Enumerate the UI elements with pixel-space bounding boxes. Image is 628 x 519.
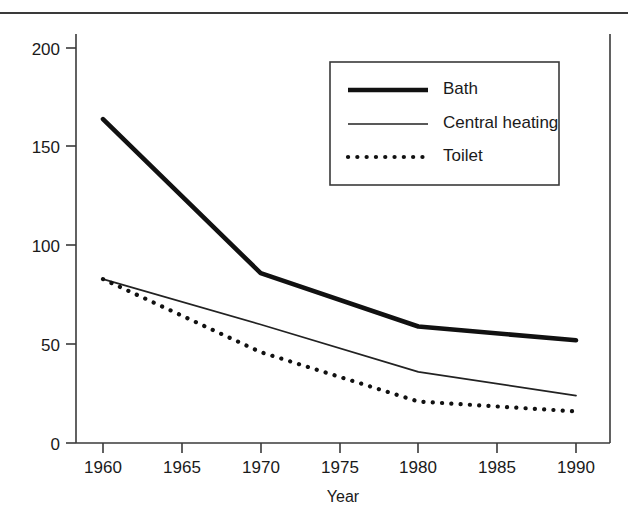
x-tick-label-1960: 1960 — [84, 458, 122, 477]
chart-legend[interactable]: Bath Central heating Toilet — [330, 62, 559, 185]
y-tick-label-150: 150 — [32, 138, 60, 157]
series-line-central-heating — [103, 279, 576, 396]
x-tick-label-1980: 1980 — [399, 458, 437, 477]
x-tick-label-1985: 1985 — [478, 458, 516, 477]
x-tick-label-1965: 1965 — [163, 458, 201, 477]
legend-label-central-heating: Central heating — [443, 113, 558, 132]
x-axis-title: Year — [327, 488, 360, 505]
legend-label-bath: Bath — [443, 79, 478, 98]
x-tick-label-1990: 1990 — [557, 458, 595, 477]
y-tick-label-50: 50 — [41, 336, 60, 355]
y-tick-label-100: 100 — [32, 237, 60, 256]
legend-label-toilet: Toilet — [443, 146, 483, 165]
y-tick-label-200: 200 — [32, 40, 60, 59]
y-axis-ticks: 200 150 100 50 0 — [32, 40, 76, 454]
line-chart-canvas: 200 150 100 50 0 1960 1965 1970 1975 198… — [0, 0, 628, 519]
y-tick-label-0: 0 — [51, 435, 60, 454]
chart-figure: 200 150 100 50 0 1960 1965 1970 1975 198… — [0, 0, 628, 519]
x-tick-label-1970: 1970 — [242, 458, 280, 477]
x-axis-ticks: 1960 1965 1970 1975 1980 1985 1990 — [84, 443, 595, 477]
x-tick-label-1975: 1975 — [321, 458, 359, 477]
